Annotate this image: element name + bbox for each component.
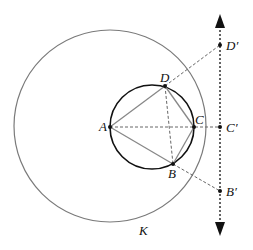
point-d-prime	[218, 43, 222, 47]
point-c-prime	[218, 125, 222, 129]
label-d-prime: D′	[225, 38, 238, 53]
label-c-prime: C′	[226, 120, 238, 135]
point-b-prime	[218, 189, 222, 193]
inversion-diagram: A B C D B′ C′ D′ K	[0, 0, 253, 250]
label-b-prime: B′	[226, 184, 237, 199]
points	[108, 43, 222, 193]
label-b: B	[168, 166, 176, 181]
label-k: K	[138, 223, 149, 238]
label-a: A	[98, 119, 107, 134]
label-d: D	[159, 70, 170, 85]
arrow-down-icon	[215, 222, 225, 236]
point-a	[108, 125, 112, 129]
label-c: C	[195, 112, 204, 127]
arrow-up-icon	[215, 14, 225, 28]
